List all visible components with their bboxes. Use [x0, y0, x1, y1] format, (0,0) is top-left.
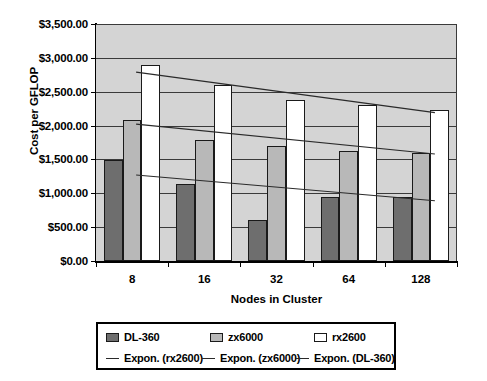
legend-line-icon	[202, 358, 215, 359]
x-tick-mark	[96, 261, 97, 267]
legend-label: rx2600	[332, 331, 366, 343]
x-axis-title: Nodes in Cluster	[96, 293, 457, 305]
y-tick-label: $1,500.00	[39, 153, 88, 165]
legend-item-expon-dl-360-[interactable]: Expon. (DL-360)	[296, 348, 395, 368]
x-tick-label-8: 8	[129, 273, 135, 285]
x-tick-mark	[168, 261, 169, 267]
trendline-expon-dl-360-	[136, 175, 435, 201]
legend-row: Expon. (rx2600)Expon. (zx6000)Expon. (DL…	[98, 348, 394, 368]
x-tick-mark	[385, 261, 386, 267]
legend-item-zx6000[interactable]: zx6000	[210, 327, 263, 347]
trendline-layer	[96, 24, 457, 261]
legend-label: Expon. (DL-360)	[314, 352, 395, 364]
y-tick-label: $500.00	[48, 221, 88, 233]
chart-legend: DL-360zx6000rx2600 Expon. (rx2600)Expon.…	[96, 322, 396, 370]
legend-swatch-icon	[106, 333, 119, 342]
x-tick-mark	[240, 261, 241, 267]
legend-label: Expon. (rx2600)	[124, 352, 203, 364]
x-tick-label-128: 128	[411, 273, 430, 285]
x-tick-mark	[457, 261, 458, 267]
y-tick-label: $2,500.00	[39, 86, 88, 98]
legend-label: Expon. (zx6000)	[220, 352, 300, 364]
y-tick-label: $3,500.00	[39, 18, 88, 30]
legend-item-dl-360[interactable]: DL-360	[106, 327, 159, 347]
y-axis-ticks: $0.00$500.00$1,000.00$1,500.00$2,000.00$…	[0, 0, 96, 275]
x-tick-label-16: 16	[198, 273, 211, 285]
trendline-expon-zx6000-	[136, 124, 435, 154]
legend-swatch-icon	[314, 333, 327, 342]
cost-per-gflop-chart: Cost per GFLOP $0.00$500.00$1,000.00$1,5…	[0, 0, 487, 381]
legend-item-rx2600[interactable]: rx2600	[314, 327, 366, 347]
legend-item-expon-zx6000-[interactable]: Expon. (zx6000)	[202, 348, 300, 368]
x-axis-ticks: 8163264128	[96, 261, 457, 295]
legend-line-icon	[296, 358, 309, 359]
y-tick-label: $2,000.00	[39, 120, 88, 132]
y-tick-label: $0.00	[60, 255, 88, 267]
x-tick-label-64: 64	[342, 273, 355, 285]
y-tick-label: $1,000.00	[39, 187, 88, 199]
legend-label: DL-360	[124, 331, 159, 343]
trendline-expon-rx2600-	[136, 72, 435, 113]
y-tick-label: $3,000.00	[39, 52, 88, 64]
legend-row: DL-360zx6000rx2600	[98, 327, 394, 347]
plot-area	[96, 24, 457, 261]
legend-item-expon-rx2600-[interactable]: Expon. (rx2600)	[106, 348, 203, 368]
x-tick-label-32: 32	[270, 273, 283, 285]
legend-swatch-icon	[210, 333, 223, 342]
legend-label: zx6000	[228, 331, 263, 343]
x-tick-mark	[313, 261, 314, 267]
legend-line-icon	[106, 358, 119, 359]
